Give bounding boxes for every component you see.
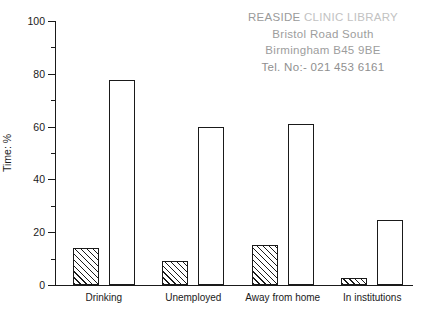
bar-open-0 <box>109 80 135 285</box>
y-tick-label: 60 <box>17 121 45 133</box>
bar-open-3 <box>377 220 403 285</box>
plot-area: 020406080100 Time: % <box>55 21 415 285</box>
bar-hatched-0 <box>73 248 99 285</box>
chart-figure: REASIDE CLINIC LIBRARY Bristol Road Sout… <box>0 0 422 317</box>
bar-open-2 <box>288 124 314 285</box>
bar-open-1 <box>198 127 224 285</box>
y-tick-major <box>48 285 55 286</box>
y-tick-label: 80 <box>17 68 45 80</box>
category-label: Unemployed <box>165 292 221 303</box>
bar-hatched-1 <box>162 261 188 285</box>
y-tick-major <box>48 74 55 75</box>
category-label: In institutions <box>343 292 401 303</box>
y-tick-label: 40 <box>17 173 45 185</box>
bar-series-group <box>55 21 413 285</box>
category-label: Drinking <box>85 292 122 303</box>
y-tick-major <box>48 21 55 22</box>
y-tick-label: 100 <box>17 15 45 27</box>
y-tick-label: 0 <box>17 279 45 291</box>
bar-hatched-2 <box>252 245 278 285</box>
bar-hatched-3 <box>341 278 367 285</box>
y-tick-major <box>48 232 55 233</box>
y-axis-title: Time: % <box>1 134 13 172</box>
y-tick-major <box>48 179 55 180</box>
x-axis-line <box>55 285 413 286</box>
y-tick-major <box>48 127 55 128</box>
category-label: Away from home <box>245 292 320 303</box>
x-axis-category-labels: DrinkingUnemployedAway from homeIn insti… <box>55 292 415 308</box>
y-tick-label: 20 <box>17 226 45 238</box>
